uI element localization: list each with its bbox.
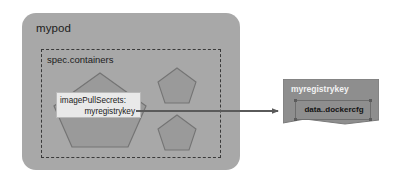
image-pull-secrets-label: imagePullSecrets: myregistrykey xyxy=(56,92,141,118)
image-pull-secrets-key: imagePullSecrets: xyxy=(60,95,135,106)
diagram-canvas: mypod spec.containers imagePullSecrets: … xyxy=(0,0,393,181)
image-pull-secrets-value: myregistrykey xyxy=(60,106,135,117)
secret-box: myregistrykey data..dockercfg xyxy=(283,79,379,128)
secret-title: myregistrykey xyxy=(291,84,349,94)
pod-label: mypod xyxy=(36,22,71,34)
spec-containers-label: spec.containers xyxy=(47,54,114,65)
handle-bottom-right xyxy=(369,118,372,121)
secret-data-field: data..dockercfg xyxy=(295,100,371,120)
container-small-pentagon-top xyxy=(157,67,197,105)
handle-top-left xyxy=(294,99,297,102)
handle-bottom-left xyxy=(294,118,297,121)
container-small-pentagon-bottom xyxy=(157,114,197,152)
handle-top-right xyxy=(369,99,372,102)
secret-data-key: data..dockercfg xyxy=(296,105,372,114)
